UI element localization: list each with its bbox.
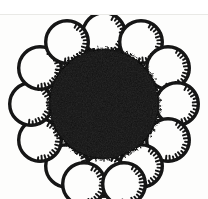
serrated-ring (103, 163, 146, 199)
serrated-ring (63, 163, 106, 199)
core-speckle (51, 51, 158, 158)
figure-root: Radial cluster of ringed discs around a … (0, 0, 208, 199)
figure-canvas (0, 0, 208, 199)
